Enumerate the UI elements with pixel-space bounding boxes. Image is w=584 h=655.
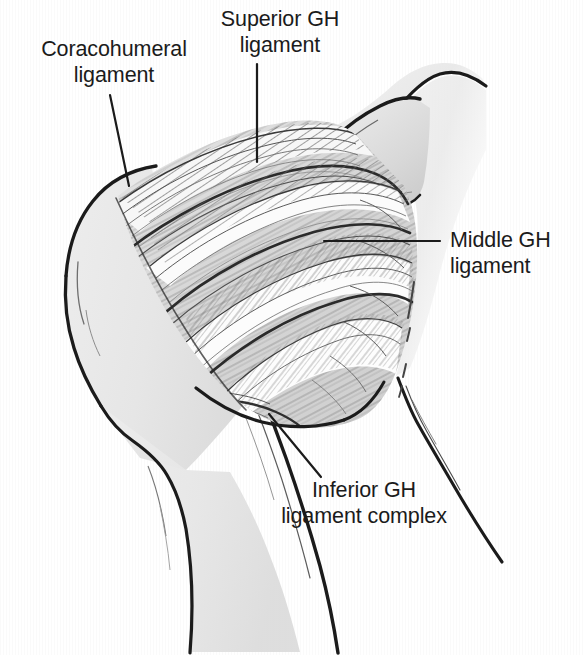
anatomy-illustration [0, 0, 584, 655]
label-middle-gh-ligament: Middle GH ligament [450, 227, 584, 279]
label-superior-gh-ligament: Superior GH ligament [180, 6, 380, 58]
label-inferior-gh-ligament-complex: Inferior GH ligament complex [248, 477, 480, 529]
anatomical-figure: Coracohumeral ligament Superior GH ligam… [0, 0, 584, 655]
